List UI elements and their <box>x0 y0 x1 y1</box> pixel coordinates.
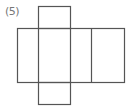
net-top-face <box>39 7 71 29</box>
net-bottom-face <box>39 83 71 105</box>
cuboid-net-diagram <box>0 0 133 107</box>
